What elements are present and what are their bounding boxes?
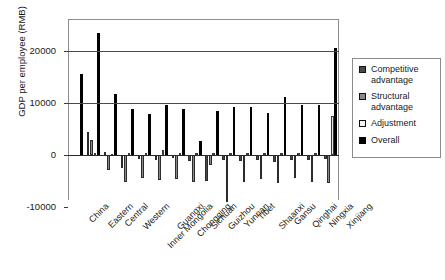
bar-structural	[327, 155, 330, 183]
zero-axis-line	[68, 155, 339, 156]
bar-group	[85, 0, 102, 210]
bar-structural	[294, 155, 297, 178]
bar-structural	[124, 155, 127, 182]
gridline	[68, 51, 339, 52]
y-axis-ticks: -1000001000020000	[0, 0, 64, 280]
bar-group	[102, 0, 119, 210]
bar-group	[136, 0, 153, 210]
bar-overall	[199, 141, 202, 155]
bar-group	[305, 0, 322, 210]
bar-competitive	[205, 155, 208, 181]
bar-overall	[165, 105, 168, 155]
bar-group	[119, 0, 136, 210]
bar-structural	[311, 155, 314, 182]
bar-group	[170, 0, 187, 210]
bar-overall	[233, 107, 236, 155]
y-axis-tick-label: 0	[0, 149, 64, 160]
bar-group	[220, 0, 237, 210]
bars-layer	[68, 0, 339, 210]
y-axis-tick-label: 10000	[0, 97, 64, 108]
bar-structural	[226, 155, 229, 202]
y-axis-tick-mark	[64, 207, 68, 208]
bar-group	[254, 0, 271, 210]
gridline	[68, 103, 339, 104]
bar-competitive	[87, 132, 90, 155]
bar-structural	[175, 155, 178, 179]
legend-swatch-icon	[359, 93, 366, 100]
bar-structural	[243, 155, 246, 182]
bar-overall	[216, 111, 219, 155]
legend-item[interactable]: Competitive advantage	[358, 64, 436, 85]
x-axis-labels: ChinaEasternCentralWesternInner Mongolia…	[68, 201, 339, 280]
bar-overall	[182, 109, 185, 155]
chart-legend: Competitive advantageStructural advantag…	[352, 58, 441, 158]
bar-structural	[260, 155, 263, 179]
legend-swatch-icon	[359, 66, 366, 73]
legend-swatch-icon	[359, 137, 366, 144]
legend-item[interactable]: Adjustment	[358, 118, 436, 129]
y-axis-tick-label: 20000	[0, 45, 64, 56]
bar-overall	[148, 114, 151, 155]
bar-group	[68, 0, 85, 210]
bar-group	[153, 0, 170, 210]
legend-label: Structural advantage	[371, 91, 436, 112]
bar-overall	[250, 107, 253, 155]
y-axis-tick-label: -10000	[0, 201, 64, 212]
bar-overall	[267, 113, 270, 155]
bar-competitive	[273, 155, 276, 162]
bar-structural	[90, 140, 93, 155]
legend-item[interactable]: Overall	[358, 135, 436, 146]
bar-overall	[301, 105, 304, 155]
legend-label: Adjustment	[371, 118, 416, 129]
bar-adjustment	[331, 116, 334, 155]
bar-overall	[334, 48, 337, 155]
bar-group	[237, 0, 254, 210]
bar-structural	[141, 155, 144, 178]
bar-group	[271, 0, 288, 210]
bar-group	[204, 0, 221, 210]
bar-group	[187, 0, 204, 210]
bar-structural	[209, 155, 212, 165]
chart-root: GDP per employee (RMB) -1000001000020000…	[0, 0, 445, 280]
legend-item[interactable]: Structural advantage	[358, 91, 436, 112]
bar-competitive	[121, 155, 124, 168]
bar-group	[322, 0, 339, 210]
legend-label: Competitive advantage	[371, 64, 436, 85]
legend-label: Overall	[371, 135, 400, 146]
bar-structural	[107, 155, 110, 170]
bar-structural	[277, 155, 280, 183]
bar-overall	[131, 109, 134, 155]
bar-group	[288, 0, 305, 210]
bar-overall	[318, 105, 321, 155]
legend-swatch-icon	[359, 120, 366, 127]
bar-structural	[158, 155, 161, 180]
bar-overall	[80, 74, 83, 155]
bar-overall	[284, 97, 287, 155]
bar-structural	[192, 155, 195, 182]
